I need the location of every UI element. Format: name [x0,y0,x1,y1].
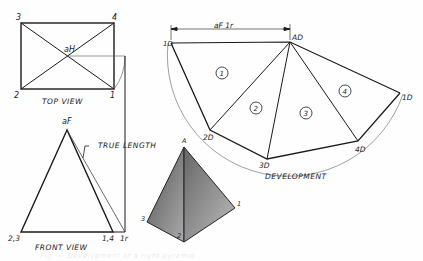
apex-label-top: aH [64,45,75,54]
face-4-label: 4 [343,88,347,96]
top-corner-4: 4 [112,13,117,22]
dimension-label: aF 1r [214,21,234,30]
fold-line-2 [210,42,290,130]
development-arc [167,43,403,176]
pyramid-left-face [147,147,184,242]
front-base-left-label: 2,3 [8,234,20,243]
development [167,24,403,176]
technical-drawing: 3 4 2 1 aH TOP VIEW aF TRUE LENGTH 2,3 1… [0,0,423,261]
dev-point-3d: 3D [259,161,270,170]
dev-point-ad: AD [291,33,303,42]
development-caption: DEVELOPMENT [265,172,328,181]
front-view-caption: FRONT VIEW [35,243,88,252]
top-view-caption: TOP VIEW [42,97,83,106]
face-2-label: 2 [254,105,259,113]
dev-point-4d: 4D [355,145,366,154]
development-top-edges [171,42,400,93]
faint-footer-caption: Fig. — Development of a right pyramid [40,252,195,260]
face-1-label: 1 [220,70,224,78]
fold-line-3 [267,42,290,159]
top-corner-1: 1 [110,91,115,100]
pictorial-corner-1: 1 [237,200,241,208]
pictorial-apex-label: A [181,137,186,145]
face-3-label: 3 [304,110,308,118]
dev-point-1d-start: 1D [163,40,173,48]
front-base-right-label: 1,4 [102,234,114,243]
top-corner-2: 2 [14,91,19,100]
dev-point-1d-end: 1D [402,93,413,102]
arrow-left-icon [171,28,177,31]
revolution-arc [114,56,125,89]
arrow-right-icon [284,28,290,31]
revolved-point-label: 1r [120,234,129,243]
true-length-leader [83,146,89,158]
drawing-canvas: 3 4 2 1 aH TOP VIEW aF TRUE LENGTH 2,3 1… [0,0,423,261]
pictorial-pyramid [147,147,235,242]
dev-point-2d: 2D [203,133,214,142]
top-view [21,23,125,232]
apex-label-front: aF [62,117,72,126]
pyramid-right-face [184,147,235,242]
top-corner-3: 3 [16,13,21,22]
pictorial-corner-2: 2 [177,232,181,240]
fold-line-4 [290,42,358,141]
true-length-annotation: TRUE LENGTH [98,141,156,150]
pictorial-corner-3: 3 [141,215,145,223]
